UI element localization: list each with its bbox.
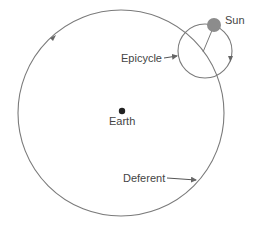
epicycle-diagram: Sun Epicycle Earth Deferent: [0, 0, 254, 225]
earth-label: Earth: [109, 115, 135, 127]
epicycle-pointer-arrow: [164, 56, 177, 58]
epicycle-circle: [178, 24, 232, 78]
earth-icon: [119, 108, 125, 114]
deferent-pointer-arrow: [167, 178, 196, 180]
epicycle-label: Epicycle: [121, 52, 162, 64]
deferent-label: Deferent: [123, 172, 165, 184]
epicycle-radius-line: [203, 28, 213, 52]
sun-icon: [207, 18, 221, 32]
epicycle-direction-arrow: [228, 56, 233, 62]
sun-label: Sun: [225, 14, 245, 26]
